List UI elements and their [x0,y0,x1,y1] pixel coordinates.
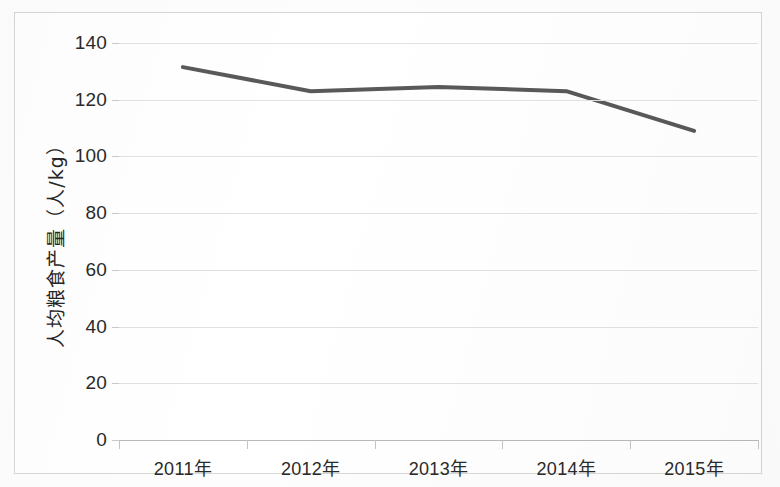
y-axis-title-text: 人均粮食产量（人/kg） [41,135,68,347]
chart-figure: 人均粮食产量（人/kg） 020406080100120140 2011年201… [0,0,780,487]
x-axis-tick [247,440,248,449]
chart-plot-frame: 人均粮食产量（人/kg） 020406080100120140 2011年201… [14,12,762,474]
plot-area: 020406080100120140 [119,43,758,440]
gridline [119,43,758,44]
y-axis-tick-label: 0 [96,429,107,451]
y-axis-tick [112,213,119,214]
x-axis-tick [758,440,759,449]
gridline [119,383,758,384]
y-axis-tick-label: 120 [75,89,107,111]
y-axis-tick [112,327,119,328]
y-axis-tick-label: 20 [85,372,107,394]
y-axis-tick-label: 100 [75,145,107,167]
y-axis-tick-label: 60 [85,259,107,281]
x-axis-tick-label: 2013年 [375,454,503,484]
gridline [119,100,758,101]
series-line-chart [119,43,758,440]
y-axis-title: 人均粮食产量（人/kg） [39,43,69,440]
x-axis-tick-label: 2014年 [502,454,630,484]
gridline [119,270,758,271]
x-axis-tick-label: 2012年 [247,454,375,484]
y-axis-tick [112,440,119,441]
y-axis-tick [112,383,119,384]
x-axis-tick-label: 2015年 [630,454,758,484]
gridline [119,440,758,441]
y-axis-tick [112,156,119,157]
y-axis-tick-label: 40 [85,316,107,338]
gridline [119,327,758,328]
x-axis-tick [119,440,120,449]
x-axis-tick-label: 2011年 [119,454,247,484]
gridline [119,156,758,157]
x-axis-tick [375,440,376,449]
y-axis-tick-label: 140 [75,32,107,54]
y-axis-tick-label: 80 [85,202,107,224]
y-axis-tick [112,43,119,44]
y-axis-tick [112,100,119,101]
gridline [119,213,758,214]
y-axis-tick [112,270,119,271]
x-axis-labels: 2011年2012年2013年2014年2015年 [119,454,758,484]
x-axis-tick [630,440,631,449]
x-axis-tick [502,440,503,449]
